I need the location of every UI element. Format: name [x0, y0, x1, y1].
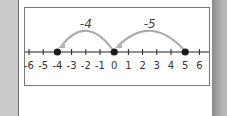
tick-label: 5: [182, 60, 188, 71]
tick-labels: -6-5-4-3-2-10123456: [24, 60, 203, 71]
jump-label: -5: [144, 17, 156, 31]
tick-label: 1: [125, 60, 131, 71]
jump-arc: [118, 31, 183, 49]
tick-label: -1: [95, 60, 105, 71]
tick-label: -2: [81, 60, 91, 71]
jump-label: -4: [80, 17, 92, 31]
number-line-diagram: -6-5-4-3-2-10123456 -5-4: [0, 0, 227, 116]
tick-label: 6: [196, 60, 202, 71]
arrowhead-icon: [58, 41, 65, 48]
tick-label: -5: [38, 60, 48, 71]
point-dot: [182, 48, 189, 55]
jump-arcs: -5-4: [58, 17, 183, 49]
tick-label: 2: [139, 60, 145, 71]
tick-label: 0: [111, 60, 117, 71]
tick-label: 3: [154, 60, 160, 71]
tick-label: -3: [67, 60, 77, 71]
arrowhead-icon: [115, 41, 122, 48]
point-dot: [54, 48, 61, 55]
point-dot: [111, 48, 118, 55]
tick-label: -4: [52, 60, 62, 71]
jump-arc: [61, 31, 112, 49]
tick-label: 4: [168, 60, 174, 71]
tick-label: -6: [24, 60, 34, 71]
